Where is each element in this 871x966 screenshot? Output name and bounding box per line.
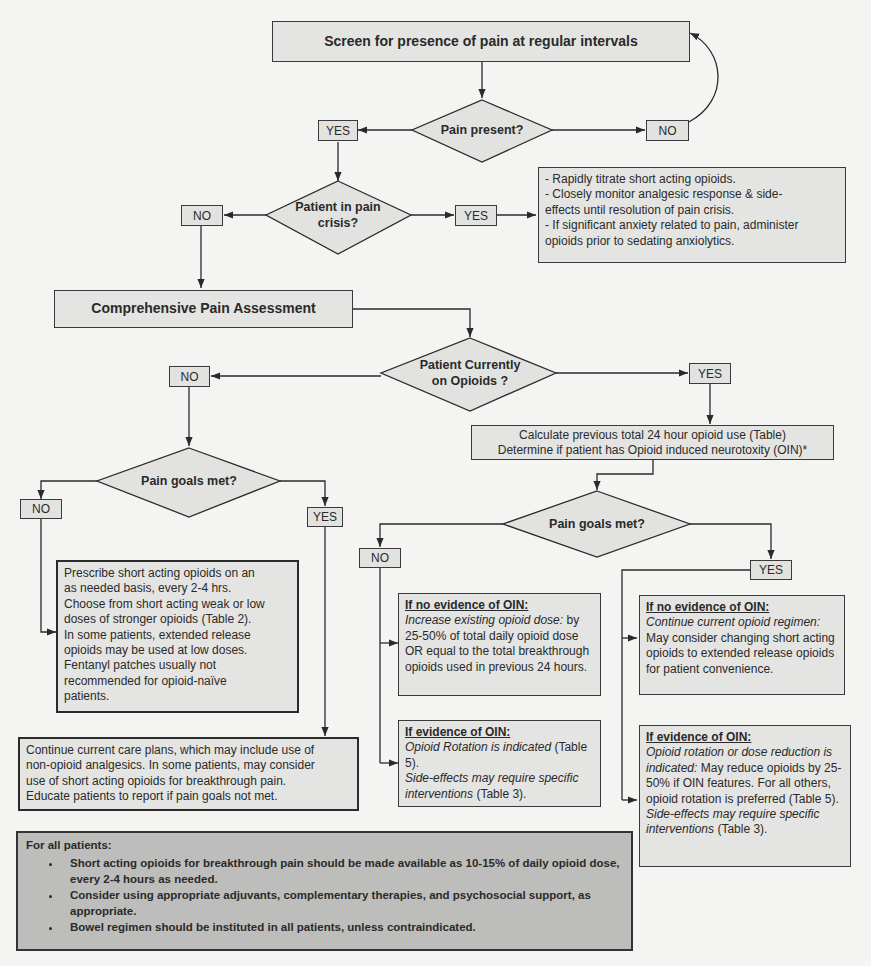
pain-crisis-no-label: NO bbox=[181, 205, 223, 226]
increase-dose-box: If no evidence of OIN: Increase existing… bbox=[398, 593, 601, 696]
opioid-goals-yes-label: YES bbox=[750, 560, 792, 580]
naive-goals-no-label: NO bbox=[20, 499, 62, 519]
opioid-goals-no-label: NO bbox=[359, 548, 401, 568]
screen-pain-text: Screen for presence of pain at regular i… bbox=[324, 34, 638, 49]
rotation-or-reduction-box: If evidence of OIN: Opioid rotation or d… bbox=[639, 725, 851, 867]
opioid-goals-question: Pain goals met? bbox=[527, 514, 667, 534]
on-opioids-no-label: NO bbox=[169, 366, 210, 387]
all-patients-bullet: Bowel regimen should be instituted in al… bbox=[62, 919, 623, 935]
crisis-actions-box: - Rapidly titrate short acting opioids. … bbox=[538, 167, 846, 263]
all-patients-list: Short acting opioids for breakthrough pa… bbox=[26, 855, 623, 935]
calculate-box: Calculate previous total 24 hour opioid … bbox=[471, 425, 834, 460]
pain-present-no-label: NO bbox=[646, 120, 689, 141]
prescribe-box: Prescribe short acting opioids on an as … bbox=[56, 560, 299, 713]
all-patients-bullet: Short acting opioids for breakthrough pa… bbox=[62, 855, 623, 887]
assessment-box: Comprehensive Pain Assessment bbox=[54, 290, 353, 328]
screen-pain-box: Screen for presence of pain at regular i… bbox=[272, 21, 690, 62]
crisis-line: - Closely monitor analgesic response & s… bbox=[545, 187, 839, 202]
crisis-line: - If significant anxiety related to pain… bbox=[545, 218, 839, 233]
pain-crisis-yes-label: YES bbox=[455, 205, 497, 226]
all-patients-heading: For all patients: bbox=[26, 837, 623, 853]
opioid-rotation-box: If evidence of OIN: Opioid Rotation is i… bbox=[398, 720, 601, 807]
continue-regimen-box: If no evidence of OIN: Continue current … bbox=[639, 595, 845, 695]
pain-crisis-question: Patient in pain crisis? bbox=[282, 198, 394, 232]
pain-present-yes-label: YES bbox=[318, 120, 358, 141]
all-patients-box: For all patients: Short acting opioids f… bbox=[16, 831, 633, 951]
naive-goals-question: Pain goals met? bbox=[120, 471, 258, 491]
crisis-line: effects until resolution of pain crisis. bbox=[545, 203, 839, 218]
on-opioids-question: Patient Currently on Opioids ? bbox=[408, 356, 532, 390]
naive-goals-yes-label: YES bbox=[307, 507, 343, 527]
pain-present-question: Pain present? bbox=[420, 120, 544, 140]
all-patients-bullet: Consider using appropriate adjuvants, co… bbox=[62, 887, 623, 919]
on-opioids-yes-label: YES bbox=[689, 363, 731, 384]
crisis-line: opioids prior to sedating anxiolytics. bbox=[545, 234, 839, 249]
assessment-text: Comprehensive Pain Assessment bbox=[91, 301, 315, 316]
continue-care-box: Continue current care plans, which may i… bbox=[18, 737, 359, 811]
crisis-line: - Rapidly titrate short acting opioids. bbox=[545, 172, 839, 187]
